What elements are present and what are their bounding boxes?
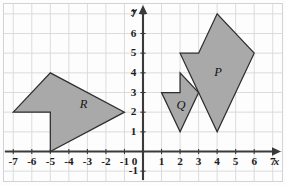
x-tick-label: 1	[159, 155, 165, 167]
x-tick-label: -6	[27, 155, 37, 167]
y-tick-label: 4	[131, 66, 137, 78]
y-axis-name: y	[130, 4, 137, 16]
coordinate-plane-figure: -7-6-5-4-3-2-101234567-11234567 PQR xy	[0, 0, 286, 185]
x-tick-label: -3	[83, 155, 93, 167]
y-tick-label: 2	[131, 105, 137, 117]
shape-label-p: P	[213, 65, 222, 79]
y-tick-label: -1	[129, 164, 139, 176]
x-tick-label: 4	[214, 155, 220, 167]
x-tick-label: 6	[251, 155, 257, 167]
coordinate-plane-svg: -7-6-5-4-3-2-101234567-11234567 PQR xy	[0, 0, 286, 185]
x-tick-label: -4	[64, 155, 74, 167]
x-tick-label: 2	[177, 155, 183, 167]
x-axis-name: x	[273, 155, 280, 167]
x-tick-label: -7	[9, 155, 19, 167]
y-tick-label: 6	[131, 27, 137, 39]
shape-label-q: Q	[176, 98, 185, 112]
x-tick-label: 5	[233, 155, 239, 167]
x-tick-label: -5	[46, 155, 56, 167]
y-tick-label: 1	[131, 125, 137, 137]
x-tick-label: -2	[101, 155, 111, 167]
x-tick-label: 3	[196, 155, 202, 167]
y-tick-label: 5	[131, 46, 137, 58]
y-tick-label: 3	[131, 86, 137, 98]
shape-label-r: R	[79, 97, 88, 111]
